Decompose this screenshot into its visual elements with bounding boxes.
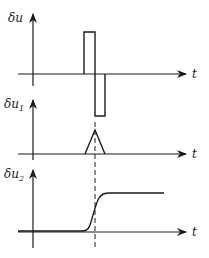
y-label-delta-u2: δu2 — [4, 167, 24, 183]
panel-delta-u: δu t — [8, 11, 197, 116]
y-label-delta-u: δu — [8, 11, 23, 25]
diagram: δu t δu1 t δu2 t — [0, 0, 209, 258]
x-label-t-3: t — [192, 225, 197, 239]
x-label-t-2: t — [192, 147, 197, 161]
x-label-t-1: t — [192, 67, 197, 81]
step-response-signal — [18, 193, 164, 231]
panel-delta-u2: δu2 t — [4, 167, 197, 248]
y-label-delta-u1: δu1 — [4, 97, 24, 113]
panel-delta-u1: δu1 t — [4, 97, 197, 161]
